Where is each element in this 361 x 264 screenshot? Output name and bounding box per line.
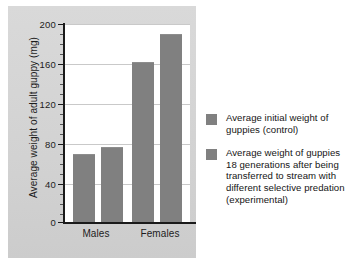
legend-entry-control: Average initial weight of guppies (contr… [206,112,356,135]
figure-root: Average weight of adult guppy (mg) 200 1… [0,0,361,264]
legend-label-experimental: Average weight of guppies 18 generations… [226,147,348,205]
x-category-label-males: Males [66,228,126,239]
y-tick-label-160: 160 [22,59,56,70]
legend-entry-experimental: Average weight of guppies 18 generations… [206,147,356,205]
plot-area [64,24,190,223]
y-axis-line [63,23,65,224]
legend-swatch-control [206,114,217,125]
y-axis-title: Average weight of adult guppy (mg) [28,33,39,203]
y-tick-label-200: 200 [22,19,56,30]
y-tick-label-120: 120 [22,99,56,110]
bar-males-control [73,154,95,223]
gridline-200 [64,24,190,25]
x-axis-line [63,222,196,224]
y-tick-label-40: 40 [22,179,56,190]
y-tick-label-80: 80 [22,139,56,150]
y-tick-label-0: 0 [22,217,56,228]
x-category-label-females: Females [126,228,194,239]
legend-swatch-experimental [206,149,217,160]
legend-label-control: Average initial weight of guppies (contr… [226,112,348,135]
bar-females-control [132,62,154,223]
legend: Average initial weight of guppies (contr… [206,112,356,217]
bar-females-experimental [160,34,182,223]
bar-males-experimental [101,147,123,223]
